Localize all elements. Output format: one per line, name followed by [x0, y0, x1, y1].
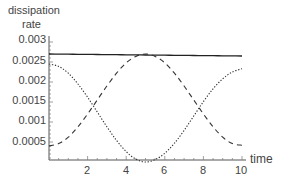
- x-tick-label: 8: [200, 164, 206, 176]
- y-tick-label: 0.0025: [12, 54, 46, 66]
- y-axis-label-line1: dissipation: [8, 4, 60, 16]
- x-tick-label: 6: [161, 164, 167, 176]
- y-tick-label: 0.001: [18, 114, 46, 126]
- series-dotted-line: [49, 64, 242, 162]
- tick-marks: [49, 42, 242, 160]
- x-axis-label: time: [250, 153, 273, 165]
- y-tick-label: 0.0015: [12, 94, 46, 106]
- y-axis-label-line2: rate: [22, 18, 41, 30]
- series-dashed-line: [49, 54, 242, 146]
- x-tick-label: 4: [123, 164, 129, 176]
- y-tick-label: 0.0005: [12, 135, 46, 147]
- x-tick-label: 10: [235, 164, 247, 176]
- dissipation-rate-chart: [0, 0, 282, 185]
- x-tick-label: 2: [84, 164, 90, 176]
- y-tick-label: 0.003: [18, 33, 46, 45]
- y-tick-label: 0.002: [18, 74, 46, 86]
- series-lines: [49, 54, 242, 162]
